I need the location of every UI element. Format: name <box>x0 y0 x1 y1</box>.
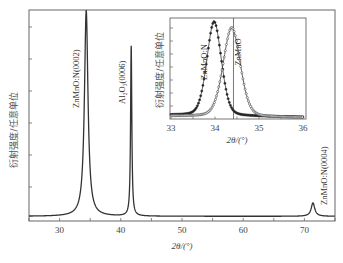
inset-point-znmno <box>221 69 223 71</box>
inset-point-znmnon <box>214 21 216 23</box>
x-tick-label: 70 <box>300 225 310 235</box>
inset-point-znmnon <box>215 25 217 27</box>
inset-point-znmno <box>229 29 231 31</box>
inset-point-znmnon <box>216 30 218 32</box>
inset-point-znmno <box>244 88 246 90</box>
inset-point-znmno <box>212 104 214 106</box>
main-x-axis-label: 2θ/(°) <box>171 241 192 251</box>
inset-point-znmno <box>246 97 248 99</box>
inset-point-znmnon <box>218 44 220 46</box>
inset-point-znmnon <box>211 26 213 28</box>
x-tick-label: 40 <box>116 225 126 235</box>
inset-point-znmnon <box>217 36 219 38</box>
inset-point-znmnon <box>200 95 202 97</box>
inset-point-znmno <box>224 50 226 52</box>
inset-point-znmno <box>225 43 227 45</box>
inset-y-axis-label: 衍射强度/任意单位 <box>154 32 165 107</box>
x-tick-label: 30 <box>55 225 65 235</box>
inset-point-znmno <box>247 100 249 102</box>
inset-point-znmno <box>241 72 243 74</box>
inset-point-znmno <box>228 33 230 35</box>
inset-point-znmnon <box>223 75 225 77</box>
inset-point-znmnon <box>196 105 198 107</box>
inset-point-znmnon <box>227 98 229 100</box>
inset-point-znmnon <box>208 39 210 41</box>
inset-point-znmnon <box>219 52 221 54</box>
inset-point-znmnon <box>201 90 203 92</box>
inset-point-znmnon <box>228 101 230 103</box>
inset-label-znmnon: ZnMnO:N <box>199 44 209 80</box>
inset-point-znmno <box>220 75 222 77</box>
inset-point-znmno <box>215 95 217 97</box>
inset-point-znmnon <box>226 93 228 95</box>
inset-point-znmno <box>301 116 303 118</box>
inset-x-axis-label: 2θ/(°) <box>226 135 247 145</box>
inset-point-znmnon <box>197 102 199 104</box>
inset-point-znmno <box>242 78 244 80</box>
inset-point-znmno <box>248 103 250 105</box>
inset-point-znmno <box>245 93 247 95</box>
inset-point-znmnon <box>210 32 212 34</box>
peak-label-znmnon-0002: ZnMnO:N(0002) <box>71 49 81 108</box>
inset-point-znmnon <box>202 84 204 86</box>
inset-point-znmno <box>233 31 235 33</box>
inset-point-znmno <box>213 101 215 103</box>
inset-point-znmno <box>219 81 221 83</box>
inset-x-tick-label: 36 <box>299 123 309 133</box>
inset-point-znmnon <box>229 104 231 106</box>
inset-point-znmno <box>232 28 234 30</box>
inset-point-znmnon <box>224 82 226 84</box>
inset-point-znmno <box>218 86 220 88</box>
peak-label-al2o3-0006: Al₂O₃(0006) <box>117 61 127 104</box>
inset-label-znmno: ZnMnO <box>233 38 243 65</box>
inset-point-znmno <box>223 56 225 58</box>
inset-x-tick-label: 33 <box>167 123 177 133</box>
x-tick-label: 50 <box>178 225 188 235</box>
inset-point-znmno <box>214 98 216 100</box>
inset-x-tick-label: 34 <box>211 123 221 133</box>
x-tick-label: 60 <box>239 225 249 235</box>
inset-point-znmno <box>222 63 224 65</box>
inset-point-znmnon <box>199 99 201 101</box>
inset-axes-box <box>170 18 306 119</box>
inset-point-znmno <box>217 91 219 93</box>
inset-x-tick-label: 35 <box>255 123 265 133</box>
inset-point-znmno <box>234 35 236 37</box>
xrd-chart: 3040506070 ZnMnO:N(0002) Al₂O₃(0006) ZnM… <box>0 0 343 263</box>
inset-point-znmnon <box>221 60 223 62</box>
peak-label-znmnon-0004: ZnMnO:N(0004) <box>319 146 329 205</box>
inset-plot-frame <box>170 18 306 119</box>
inset-point-znmnon <box>225 88 227 90</box>
inset-point-znmno <box>226 38 228 40</box>
inset-point-znmno <box>211 106 213 108</box>
main-y-axis-label: 衍射强度/任意单位 <box>8 92 19 167</box>
inset-point-znmno <box>243 83 245 85</box>
